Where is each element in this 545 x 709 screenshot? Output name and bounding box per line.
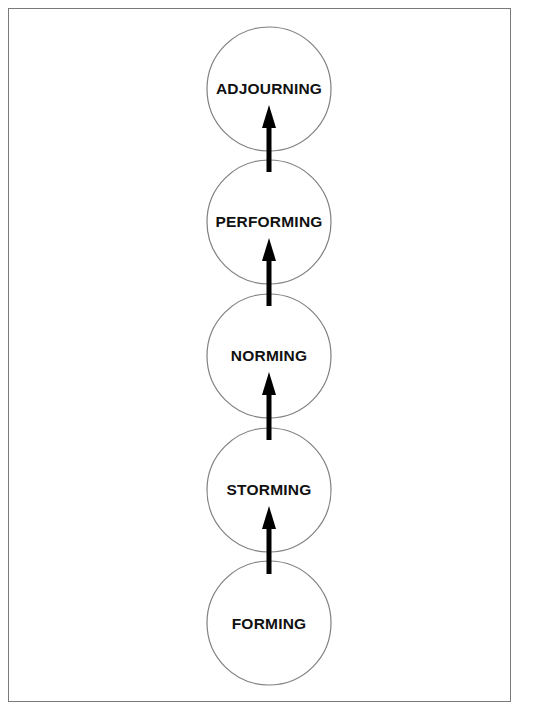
arrow-up-icon xyxy=(262,372,276,440)
stage-label-adjourning: ADJOURNING xyxy=(189,80,349,98)
stage-label-norming: NORMING xyxy=(189,347,349,365)
stage-label-storming: STORMING xyxy=(189,481,349,499)
stage-label-performing: PERFORMING xyxy=(189,213,349,231)
arrow-up-icon xyxy=(262,506,276,574)
stage-label-forming: FORMING xyxy=(189,615,349,633)
arrow-up-icon xyxy=(262,105,276,172)
arrow-up-icon xyxy=(262,238,276,306)
